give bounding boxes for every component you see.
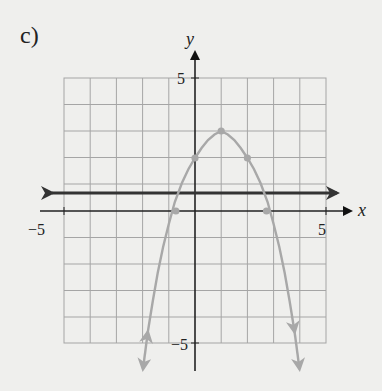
y-tick-5: 5	[177, 70, 185, 88]
x-tick-neg5: −5	[28, 221, 45, 239]
y-axis-label: y	[186, 29, 194, 50]
x-axis-label: x	[358, 200, 366, 221]
graph	[0, 0, 382, 391]
x-tick-5: 5	[318, 221, 326, 239]
y-tick-neg5: −5	[171, 336, 188, 354]
